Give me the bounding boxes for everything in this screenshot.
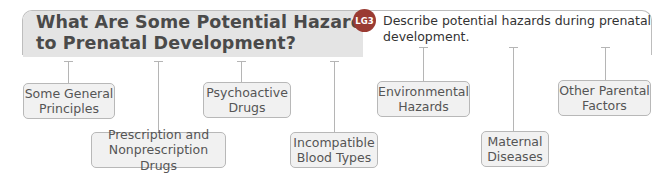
objective-line-2: development. (383, 29, 653, 45)
node-psychoactive-drugs: Psychoactive Drugs (203, 82, 291, 118)
node-line-2: Diseases (487, 149, 543, 165)
title-line-1: What Are Some Potential Hazards (36, 12, 374, 33)
node-line-2: Principles (25, 101, 114, 117)
section-title: What Are Some Potential Hazards to Prena… (36, 12, 374, 54)
node-line-1: Prescription and (92, 127, 225, 143)
learning-objective: Describe potential hazards during prenat… (383, 13, 653, 44)
node-line-1: Maternal (487, 134, 543, 150)
node-line-2: Blood Types (293, 150, 374, 166)
objective-line-1: Describe potential hazards during prenat… (383, 13, 653, 29)
node-line-1: Other Parental (559, 83, 650, 99)
connector-line (423, 47, 424, 81)
connector-line (241, 61, 242, 82)
learning-goal-badge: LG3 (353, 9, 376, 32)
node-some-general-principles: Some General Principles (23, 83, 115, 119)
connector-line (334, 61, 335, 132)
node-line-1: Psychoactive (206, 85, 288, 101)
node-line-1: Environmental (378, 84, 469, 100)
node-line-1: Some General (25, 86, 114, 102)
node-line-2: Factors (559, 98, 650, 114)
connector-line (68, 61, 69, 83)
connector-line (513, 47, 514, 131)
node-line-2: Drugs (206, 100, 288, 116)
title-line-2: to Prenatal Development? (36, 33, 374, 54)
node-incompatible-blood-types: Incompatible Blood Types (290, 132, 378, 168)
node-line-2: Hazards (378, 99, 469, 115)
node-other-parental-factors: Other Parental Factors (558, 80, 651, 116)
connector-line (158, 61, 159, 132)
node-environmental-hazards: Environmental Hazards (377, 81, 470, 117)
connector-line (605, 47, 606, 80)
node-maternal-diseases: Maternal Diseases (481, 131, 549, 167)
node-line-1: Incompatible (293, 135, 374, 151)
node-prescription-drugs: Prescription and Nonprescription Drugs (91, 132, 226, 168)
node-line-2: Nonprescription Drugs (92, 142, 225, 173)
